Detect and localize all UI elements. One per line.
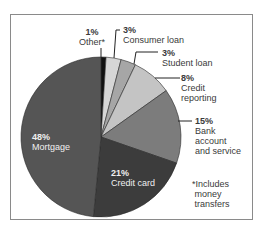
label-credit-card: 21%Credit card (111, 168, 155, 188)
label-credit-reporting: 8%Creditreporting (181, 73, 217, 103)
label-mortgage: 48%Mortgage (32, 132, 70, 152)
label-consumer-loan: 3%Consumer loan (123, 25, 184, 45)
label-bank-account: 15%Bankaccountand service (195, 116, 241, 156)
leader-student (134, 52, 158, 64)
label-student-loan: 3%Student loan (162, 48, 213, 68)
footnote: *Includes money transfers (192, 179, 230, 209)
leader-consumer (114, 30, 120, 58)
label-other: 1%Other* (79, 27, 105, 47)
